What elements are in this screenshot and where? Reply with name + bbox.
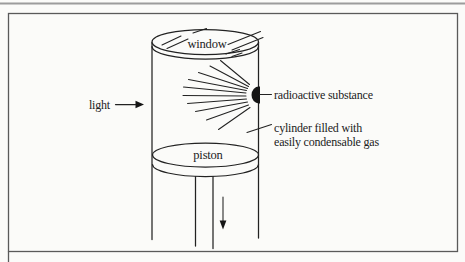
window-label: window [187,37,226,51]
figure-canvas: window radioactive substance cylinder fi… [0,0,465,262]
light-label: light [89,98,111,112]
cylinder-fill-label-line2: easily condensable gas [274,135,379,149]
piston-label: piston [193,148,223,162]
cloud-chamber-diagram: window radioactive substance cylinder fi… [0,0,465,262]
radioactive-substance-label: radioactive substance [274,88,373,102]
cylinder-fill-label-line1: cylinder filled with [274,121,362,135]
